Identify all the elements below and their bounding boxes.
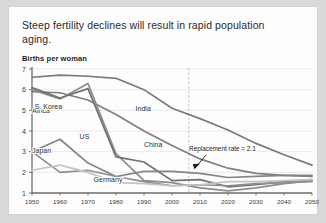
series-line-india: [32, 92, 312, 177]
x-tick-label: 2030: [249, 198, 263, 205]
series-label-s-korea: S. Korea: [35, 103, 62, 110]
series-label-india: India: [136, 105, 151, 112]
y-tick-label: 2: [22, 169, 26, 176]
x-tick-label: 1970: [81, 198, 95, 205]
x-tick-label: 1980: [109, 198, 123, 205]
x-tick-label: 1990: [137, 198, 151, 205]
x-tick-label: 2020: [221, 198, 235, 205]
x-tick-label: 1960: [53, 198, 67, 205]
series-label-japan: Japan: [32, 147, 51, 155]
fertility-line-chart: 1234567 19501960197019801990200020102020…: [9, 7, 319, 216]
y-tick-label: 6: [22, 86, 26, 93]
annotation-label: Replacement rate = 2.1: [189, 145, 256, 153]
x-axis-ticks: 1950196019701980199020002010202020302040…: [25, 193, 319, 205]
y-tick-label: 3: [22, 148, 26, 155]
series-label-us: US: [80, 133, 90, 140]
x-tick-label: 2010: [193, 198, 207, 205]
data-series-lines: [32, 75, 312, 191]
x-tick-label: 2000: [165, 198, 179, 205]
series-label-china: China: [144, 141, 162, 148]
y-tick-label: 5: [22, 107, 26, 114]
y-axis-ticks: 1234567: [22, 66, 32, 197]
y-tick-label: 1: [22, 190, 26, 197]
x-tick-label: 2040: [277, 198, 291, 205]
series-label-germany: Germany: [94, 176, 123, 184]
x-tick-label: 1950: [25, 198, 39, 205]
chart-plot-area: 1234567 19501960197019801990200020102020…: [9, 7, 319, 216]
y-tick-label: 4: [22, 128, 26, 135]
y-tick-label: 7: [22, 66, 26, 73]
x-tick-label: 2050: [305, 198, 319, 205]
screenshot-root: Steep fertility declines will result in …: [0, 0, 326, 223]
chart-card: Steep fertility declines will result in …: [8, 6, 318, 215]
